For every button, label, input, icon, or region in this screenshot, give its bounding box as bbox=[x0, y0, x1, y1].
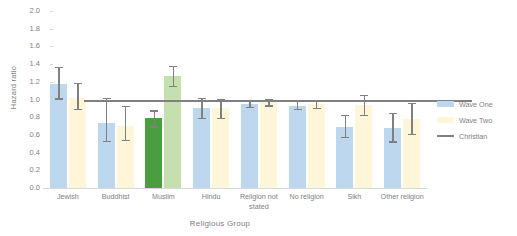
legend-item[interactable]: Wave One bbox=[437, 96, 517, 112]
x-category-label: Sikh bbox=[328, 192, 382, 202]
y-tick-label: 1.2 bbox=[14, 78, 40, 86]
x-category-label: Other religion bbox=[375, 192, 429, 202]
hazard-ratio-bar-chart: Hazard ratio Religious Group 0.00.20.40.… bbox=[0, 0, 517, 236]
x-category-label: Muslim bbox=[137, 192, 191, 202]
legend-label: Christian bbox=[459, 132, 487, 141]
x-axis-title: Religious Group bbox=[0, 219, 440, 228]
legend-item[interactable]: Christian bbox=[437, 128, 517, 144]
x-axis-line bbox=[43, 188, 427, 189]
x-category-label: No religion bbox=[280, 192, 334, 202]
y-tick-label: 1.4 bbox=[14, 60, 40, 68]
y-tick-label: 0.0 bbox=[14, 184, 40, 192]
legend-swatch-icon bbox=[437, 101, 454, 107]
y-tick-label: 1.8 bbox=[14, 25, 40, 33]
legend-label: Wave Two bbox=[459, 116, 492, 125]
y-tick-label: 2.0 bbox=[14, 7, 40, 15]
legend-item[interactable]: Wave Two bbox=[437, 112, 517, 128]
y-tick-label: 0.8 bbox=[14, 113, 40, 121]
chart-legend: Wave OneWave TwoChristian bbox=[437, 96, 517, 144]
legend-swatch-icon bbox=[437, 117, 454, 123]
y-tick-label: 1.0 bbox=[14, 96, 40, 104]
plot-area bbox=[44, 11, 426, 188]
error-bar bbox=[58, 11, 59, 188]
legend-swatch-icon bbox=[437, 135, 454, 137]
x-category-label: Religion not stated bbox=[232, 192, 286, 211]
error-bar bbox=[77, 11, 78, 188]
y-tick-label: 0.6 bbox=[14, 131, 40, 139]
y-axis-tick-labels: 0.00.20.40.60.81.01.21.41.61.82.0 bbox=[10, 0, 40, 200]
x-category-label: Buddhist bbox=[89, 192, 143, 202]
x-category-label: Hindu bbox=[184, 192, 238, 202]
y-tick-label: 0.2 bbox=[14, 166, 40, 174]
y-tick-label: 0.4 bbox=[14, 149, 40, 157]
y-tick-label: 1.6 bbox=[14, 42, 40, 50]
x-category-label: Jewish bbox=[41, 192, 95, 202]
christian-reference-line bbox=[84, 100, 472, 102]
x-axis-category-labels: JewishBuddhistMuslimHinduReligion not st… bbox=[44, 192, 426, 220]
legend-label: Wave One bbox=[459, 100, 493, 109]
